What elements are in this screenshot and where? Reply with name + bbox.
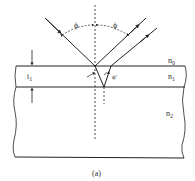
reflected-angle-label: ϕ — [113, 21, 117, 30]
film-medium-label: n1 — [168, 72, 175, 82]
ambient-medium-label: n0 — [168, 56, 175, 66]
substrate-medium-label: n2 — [166, 109, 173, 119]
second-reflected-ray — [111, 28, 157, 66]
pointer-arrow — [87, 73, 94, 77]
figure-caption: (a) — [92, 169, 101, 178]
incident-angle-label: ϕ — [74, 21, 78, 30]
thickness-label: t1 — [27, 72, 32, 82]
film-layer — [15, 66, 186, 87]
thin-film-reflection-diagram: ϕ ϕ ϕ' t1 n0 n1 n2 (a) — [0, 0, 195, 181]
substrate-layer — [13, 87, 185, 158]
refracted-angle-label: ϕ' — [112, 73, 117, 81]
incident-ray — [45, 18, 95, 66]
refracted-ray — [95, 66, 111, 87]
